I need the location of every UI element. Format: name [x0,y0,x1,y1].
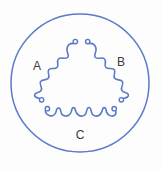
phase-c-right-terminal [112,107,116,111]
phase-a-bottom-terminal [39,98,43,102]
phase-b-top-terminal [86,39,90,43]
phase-b-bottom-terminal [119,98,123,102]
phase-b-coil [86,39,129,102]
stator-winding-diagram: A B C [0,0,162,170]
phase-c-left-terminal [45,107,49,111]
phase-label-b: B [117,55,125,69]
phase-label-a: A [33,59,41,73]
stator-diagram-canvas: A B C [0,0,162,170]
phase-b-coil-path [89,43,129,98]
phase-c-coil-path [45,108,116,117]
phase-a-top-terminal [73,39,77,43]
phase-c-coil [45,107,116,117]
phase-label-c: C [76,128,85,142]
